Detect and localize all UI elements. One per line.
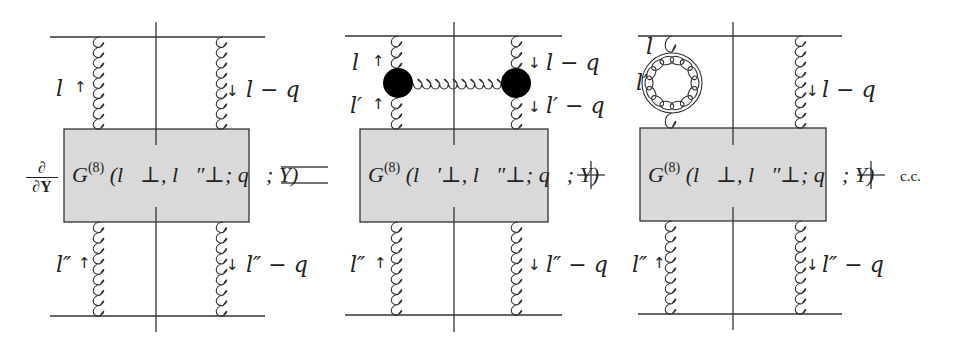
momentum-label: l″ − q [822,254,884,276]
color-octet-superscript: (8) [88,160,104,175]
arrow-up-icon: ↑ [372,54,385,69]
gluon-loop-coil [669,55,684,66]
arrow-up-icon: ↑ [372,97,385,112]
feynman-equation: ∂ ∂Y G(8) (l⃗⊥, l⃗″⊥; q⃗; Y) G(8) (l⃗′⊥,… [0,0,972,347]
derivative-numerator: ∂ [26,160,58,178]
momentum-label: l″ [350,254,365,276]
gluon-coil [665,36,676,52]
momentum-label: l′ [350,95,362,117]
term2-box-label: G(8) (l⃗⊥, l⃗″⊥; q⃗; Y) [648,163,874,186]
color-octet-superscript: (8) [664,160,680,175]
arrow-up-icon: ↑ [653,256,666,271]
arrow-down-icon: ↓ [226,84,239,99]
arrow-down-icon: ↓ [528,56,541,71]
gluon-coil [795,221,806,314]
momentum-label: l [352,52,359,74]
gluon-coil [93,37,104,129]
derivative-denominator: ∂Y [26,178,58,195]
gluon-coil [413,79,501,89]
function-symbol: G [648,162,664,187]
arrow-down-icon: ↓ [806,258,819,273]
momentum-label: l − q [546,52,600,74]
gluon-coil [391,98,402,129]
arrow-down-icon: ↓ [226,258,239,273]
function-symbol: G [72,162,88,187]
gluon-loop-coil [678,58,694,73]
gluon-coil [665,113,676,128]
arrow-down-icon: ↓ [528,258,541,273]
gluon-coil [665,221,676,314]
gluon-loop-coil [650,93,666,108]
vertex-blob-left [383,68,413,98]
arrow-up-icon: ↑ [78,256,91,271]
gluon-coil [391,36,402,68]
momentum-label: l′ [636,72,648,94]
function-arguments: (l⃗⊥, l⃗″⊥; q⃗; Y) [110,162,299,187]
gluon-coil [93,222,104,316]
gluon-coil [511,98,522,129]
gluon-coil [511,36,522,68]
arrow-down-icon: ↓ [806,84,819,99]
momentum-label: l″ − q [546,254,608,276]
arrow-up-icon: ↑ [74,80,87,95]
color-octet-superscript: (8) [384,160,400,175]
momentum-label: l [56,78,63,100]
lhs-box-label: G(8) (l⃗⊥, l⃗″⊥; q⃗; Y) [72,163,298,186]
derivative-operator: ∂ ∂Y [26,160,58,195]
gluon-coil [795,36,806,128]
gluon-coil [511,222,522,315]
function-symbol: G [368,162,384,187]
momentum-label: l [646,36,653,58]
function-arguments: (l⃗⊥, l⃗″⊥; q⃗; Y) [686,162,875,187]
momentum-label: l − q [246,79,300,101]
complex-conjugate-label: c.c. [900,168,921,185]
vertex-blob-right [501,68,531,98]
momentum-label: l − q [822,79,876,101]
momentum-label: l′ − q [546,95,605,117]
arrow-down-icon: ↓ [528,100,541,115]
gluon-loop-coil [659,100,674,111]
momentum-label: l″ [632,254,647,276]
gluon-coil [391,222,402,315]
momentum-label: l″ − q [246,254,308,276]
term1-box-label: G(8) (l⃗′⊥, l⃗″⊥; q⃗; Y) [368,163,599,186]
momentum-label: l″ [56,254,71,276]
arrow-up-icon: ↑ [374,256,387,271]
function-arguments: (l⃗′⊥, l⃗″⊥; q⃗; Y) [406,162,599,187]
